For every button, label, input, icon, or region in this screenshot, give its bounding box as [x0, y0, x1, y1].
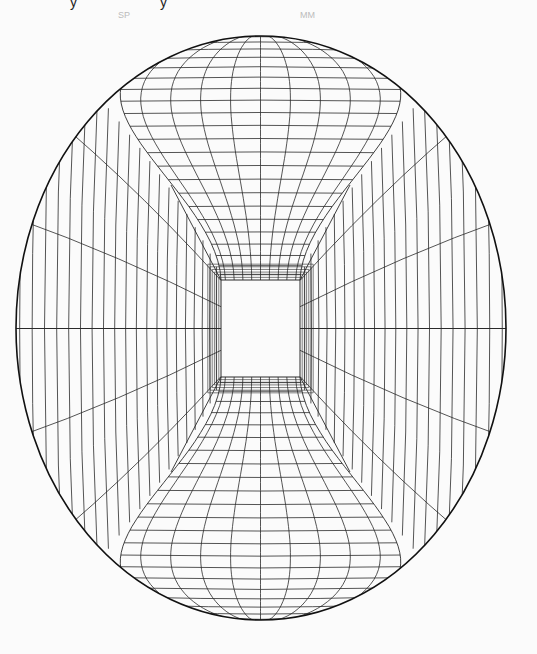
tunnel-illusion-drawing	[0, 0, 537, 654]
central-square	[221, 280, 300, 377]
